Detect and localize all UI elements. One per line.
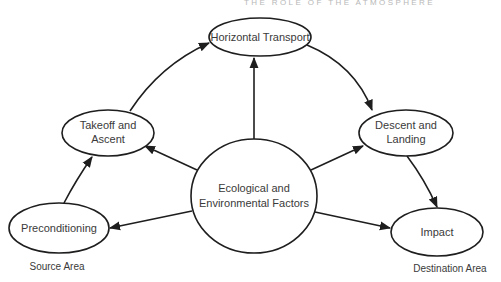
edge-ecological-to-takeoff bbox=[145, 146, 197, 170]
edge-ecological-to-preconditioning bbox=[110, 211, 192, 228]
edge-preconditioning-to-takeoff bbox=[64, 157, 92, 203]
header-caption: THE ROLE OF THE ATMOSPHERE bbox=[244, 0, 435, 7]
edge-ecological-to-impact bbox=[315, 212, 390, 228]
node-label: Ecological and bbox=[218, 182, 290, 194]
edge-takeoff-to-horizontal bbox=[130, 43, 209, 111]
node-takeoff-ascent: Takeoff and Ascent bbox=[62, 110, 154, 156]
flow-diagram: THE ROLE OF THE ATMOSPHERE Horizontal Tr… bbox=[0, 0, 501, 282]
node-label: Descent and bbox=[375, 119, 437, 131]
node-label: Horizontal Transport bbox=[210, 31, 309, 43]
node-label: Environmental Factors bbox=[199, 197, 310, 209]
node-label: Landing bbox=[386, 133, 425, 145]
node-horizontal-transport: Horizontal Transport bbox=[209, 18, 311, 56]
node-label: Takeoff and bbox=[80, 119, 137, 131]
node-label: Impact bbox=[420, 226, 453, 238]
edge-descent-to-impact bbox=[407, 156, 437, 207]
destination-area-label: Destination Area bbox=[413, 263, 487, 274]
node-preconditioning: Preconditioning bbox=[9, 203, 109, 253]
node-descent-landing: Descent and Landing bbox=[359, 110, 453, 156]
node-label: Ascent bbox=[91, 133, 125, 145]
node-label: Preconditioning bbox=[21, 222, 97, 234]
source-area-label: Source Area bbox=[29, 261, 84, 272]
edge-ecological-to-descent bbox=[311, 146, 363, 170]
node-ecological-environmental-factors: Ecological and Environmental Factors bbox=[191, 139, 317, 253]
edge-horizontal-to-descent bbox=[307, 45, 372, 110]
node-impact: Impact bbox=[391, 208, 483, 256]
